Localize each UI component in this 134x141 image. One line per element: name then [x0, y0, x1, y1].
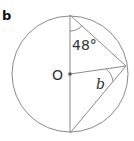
angle-arc-48 — [70, 26, 82, 31]
radius-line — [70, 66, 126, 74]
center-point — [68, 72, 72, 76]
angle-arc-b — [106, 69, 113, 81]
angle-label-48: 48° — [72, 37, 97, 53]
angle-label-b: b — [96, 76, 105, 92]
center-label: O — [52, 67, 63, 83]
part-label: b — [2, 8, 11, 23]
circle-theorem-diagram: b 48° O b — [0, 0, 134, 141]
